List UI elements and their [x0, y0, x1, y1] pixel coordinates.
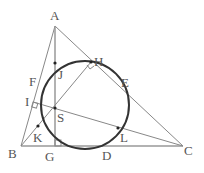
label-k: K [33, 130, 43, 145]
label-j: J [58, 67, 63, 82]
label-h: H [94, 54, 103, 69]
label-e: E [121, 75, 129, 90]
label-g: G [45, 149, 54, 164]
right-angle-i [32, 102, 38, 108]
label-l: L [120, 130, 128, 145]
label-c: C [184, 143, 193, 158]
side-ab [21, 26, 55, 146]
diagram-canvas: A B C D E F G H I J K L S [0, 0, 204, 173]
right-angle-h [87, 65, 94, 69]
label-b: B [8, 146, 17, 161]
label-i: I [25, 94, 29, 109]
geometry-diagram: A B C D E F G H I J K L S [0, 0, 204, 173]
label-f: F [29, 74, 36, 89]
label-d: D [102, 148, 111, 163]
label-a: A [50, 8, 60, 23]
point-h [89, 60, 92, 63]
nine-point-circle [41, 61, 129, 149]
point-j [53, 61, 56, 64]
label-s: S [57, 110, 64, 125]
point-k [36, 124, 39, 127]
